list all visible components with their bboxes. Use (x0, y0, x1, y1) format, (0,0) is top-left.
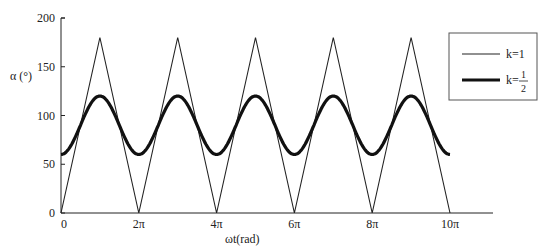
x-tick-label: 10π (441, 217, 459, 231)
legend-label-khalf-denominator: 2 (521, 83, 526, 94)
y-tick-label: 200 (37, 11, 55, 25)
x-tick-label: 6π (288, 217, 300, 231)
series-khalf-line (61, 96, 450, 155)
x-ticks: 02π4π6π8π10π (61, 217, 459, 231)
chart: 050100150200 02π4π6π8π10π α (°) ωt(rad) … (0, 0, 547, 251)
legend: k=1 k= 1 2 (449, 33, 537, 100)
x-tick-label: 8π (366, 217, 378, 231)
y-tick-label: 100 (37, 109, 55, 123)
y-tick-label: 50 (43, 157, 55, 171)
y-axis-title: α (°) (10, 69, 32, 83)
y-tick-label: 150 (37, 60, 55, 74)
legend-label-k1: k=1 (506, 47, 525, 61)
legend-label-khalf-numerator: 1 (521, 69, 526, 80)
y-tick-label: 0 (49, 206, 55, 220)
x-tick-label: 0 (61, 217, 67, 231)
x-tick-label: 2π (133, 217, 145, 231)
x-tick-label: 4π (211, 217, 223, 231)
legend-label-khalf-prefix: k= (506, 73, 519, 87)
x-axis-title: ωt(rad) (225, 232, 260, 246)
